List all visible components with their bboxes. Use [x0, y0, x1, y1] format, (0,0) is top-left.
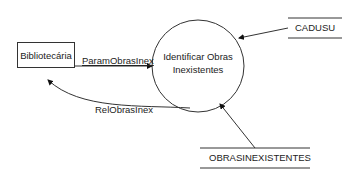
- entity-label: Bibliotecária: [20, 50, 72, 61]
- flow-cadusu-arrow: [239, 28, 288, 38]
- flow-obras-arrow: [220, 104, 255, 148]
- process-label-line1: Identificar Obras: [152, 50, 244, 63]
- store-label-cadusu: CADUSU: [295, 22, 335, 33]
- flow-label-rel: RelObrasInex: [95, 104, 153, 115]
- process-label-line2: Inexistentes: [152, 63, 244, 76]
- store-label-obras: OBRASINEXISTENTES: [209, 152, 311, 163]
- external-entity-bibliotecaria: Bibliotecária: [17, 42, 75, 68]
- process-label: Identificar Obras Inexistentes: [152, 50, 244, 76]
- flow-label-param: ParamObrasInex: [82, 55, 154, 66]
